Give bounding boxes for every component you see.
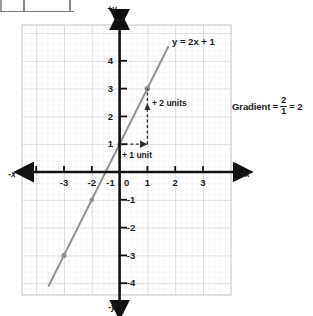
y-tick-label: 4	[108, 55, 114, 66]
y-tick-label: 1	[108, 138, 114, 149]
y-tick-label: -4	[127, 277, 136, 288]
x-tick-label: -1	[106, 177, 115, 188]
x-tick-label: 1	[145, 177, 151, 188]
equation-label: y = 2x + 1	[172, 36, 216, 47]
y-tick-label: 2	[108, 111, 113, 122]
gradient-annotation: Gradient = 2 1 = 2	[232, 96, 302, 116]
origin-label: 0	[124, 177, 129, 188]
run-label: + 1 unit	[122, 150, 152, 160]
y-tick-label: 3	[108, 83, 113, 94]
data-point	[145, 86, 151, 92]
y-tick-label: -3	[127, 250, 135, 261]
fraction-numerator: 2	[280, 96, 287, 105]
y-tick-label: -2	[127, 222, 135, 233]
rise-label: + 2 units	[152, 98, 187, 108]
x-tick-label: -3	[60, 177, 68, 188]
x-tick-label: -2	[88, 177, 96, 188]
y-tick-label: -1	[127, 194, 136, 205]
data-point	[90, 198, 95, 203]
graph-figure: -3 -2 -1 1 2 3 4 3 2 1 -1 -2 -3 -4 0 -x …	[0, 0, 313, 316]
x-tick-label: 2	[173, 177, 178, 188]
y-axis-positive-label: +y	[107, 4, 118, 14]
x-axis-positive-label: +x	[240, 169, 251, 179]
y-axis-negative-label: -y	[108, 302, 117, 312]
x-axis-negative-label: -x	[8, 169, 17, 179]
gradient-prefix-label: Gradient =	[232, 101, 278, 112]
data-point	[61, 253, 66, 258]
gradient-fraction: 2 1	[280, 96, 287, 116]
x-tick-label: 3	[200, 177, 205, 188]
gradient-result-label: = 2	[289, 101, 302, 112]
fraction-denominator: 1	[280, 107, 287, 116]
